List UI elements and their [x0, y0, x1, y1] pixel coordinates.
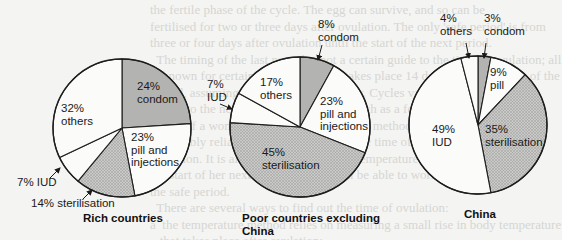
chart-title: Rich countries	[83, 212, 163, 224]
slice-label: 4%others	[440, 12, 472, 37]
pie-poor-countries-excluding-china: 8%condom23%pill andinjections17%others7%…	[207, 18, 380, 237]
pointer-arrow-icon	[220, 104, 232, 109]
pie-china: 3%condom4%others9%pill49%IUD35%sterilisa…	[409, 12, 547, 220]
chart-title: China	[464, 208, 497, 220]
slice-label: 3%condom	[484, 12, 525, 37]
slice-label: 49%IUD	[432, 123, 455, 148]
pie-charts: 24%condom23%pill andinjections32%others7…	[0, 0, 562, 240]
pointer-arrow-icon	[318, 45, 322, 60]
pie-rich-countries: 24%condom23%pill andinjections32%others7…	[17, 59, 191, 224]
slice-label: 14% sterilisation	[31, 197, 115, 209]
pointer-arrow-icon	[466, 43, 469, 58]
slice-label: 8%condom	[318, 18, 359, 43]
chart-title: Poor countries excludingChina	[242, 212, 380, 237]
slice-label: 7%IUD	[207, 78, 227, 103]
